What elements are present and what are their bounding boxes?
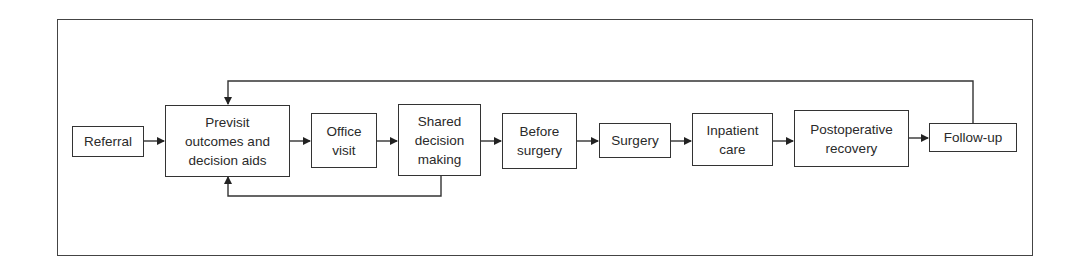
node-shared-decision-making: Shared decision making [398,104,481,176]
loop-shared-to-previsit [228,175,441,196]
node-previsit-outcomes-decision-aids: Previsit outcomes and decision aids [165,105,290,177]
node-inpatient-care: Inpatient care [692,113,773,166]
node-postoperative-recovery: Postoperative recovery [794,110,909,167]
node-office-visit: Office visit [311,113,377,168]
node-follow-up: Follow-up [929,123,1017,152]
node-before-surgery: Before surgery [502,113,577,169]
node-surgery: Surgery [599,123,671,158]
node-referral: Referral [72,126,144,157]
